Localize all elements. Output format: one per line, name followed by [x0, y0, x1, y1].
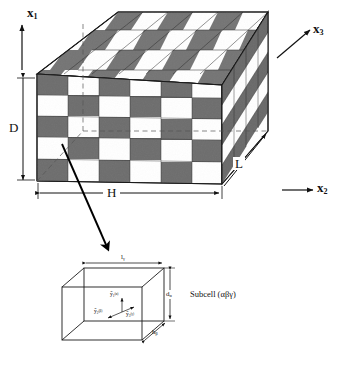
dimension-L-label: L [233, 157, 245, 170]
subcell-dimension-l-gamma-label: lγ [119, 254, 127, 261]
subcell-axis-y2-beta-line [108, 312, 122, 318]
subcell-caption: Subcell (αβγ) [190, 290, 236, 299]
subcell-cube [62, 268, 164, 340]
subcell-dimension-h-beta-label: hβ [152, 329, 158, 336]
dimension-D-label: D [9, 121, 18, 134]
axis-x2-label: x2 [317, 181, 328, 196]
axis-x3-line [277, 30, 310, 58]
subcell-axis-y1-alpha-label: ȳ1(α) [110, 292, 119, 298]
subcell-axis-y2-beta-label: ȳ2(β) [94, 309, 102, 315]
subcell-dimension-d-alpha-label: dα [166, 290, 172, 299]
block-top-face [0, 0, 339, 370]
axis-x1-label: x1 [27, 6, 38, 21]
subcell-axis-y3-gamma-label: ȳ3(γ) [126, 312, 134, 318]
figure-canvas: x1 x2 x3 D H L lγ dα hβ ȳ1(α) ȳ2(β) ȳ3(γ… [0, 0, 339, 370]
axis-x3-label: x3 [313, 22, 324, 37]
diagram-svg [0, 0, 339, 370]
subcell-dimension-lines [86, 263, 175, 340]
dimension-H-label: H [103, 186, 120, 199]
